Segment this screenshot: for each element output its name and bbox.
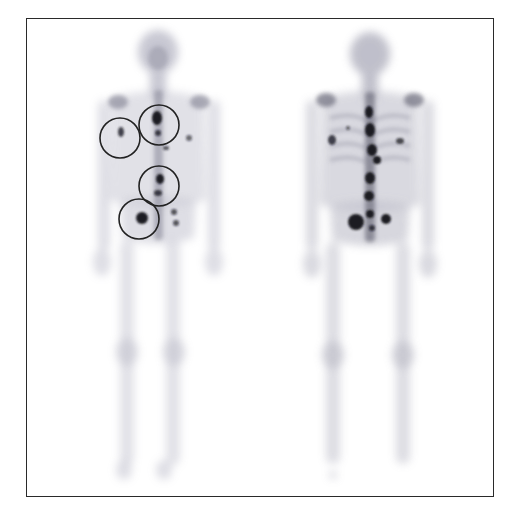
- posterior-skeleton: [303, 32, 437, 479]
- anterior-skeleton: [93, 30, 223, 480]
- bone-scan-figure: [0, 0, 509, 510]
